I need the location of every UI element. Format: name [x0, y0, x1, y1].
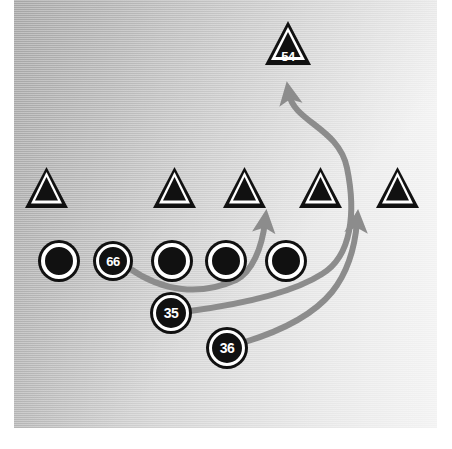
players-layer: 54 — [0, 0, 452, 449]
triangle-icon — [24, 166, 69, 209]
triangle-icon — [375, 166, 420, 209]
defender-5[interactable] — [375, 166, 420, 209]
back-35[interactable]: 35 — [153, 295, 189, 331]
triangle-icon — [298, 166, 343, 209]
lineman-3-label — [158, 247, 186, 275]
back-36[interactable]: 36 — [209, 330, 245, 366]
lineman-4-label — [212, 247, 240, 275]
lineman-1-label — [45, 247, 73, 275]
lineman-1[interactable] — [41, 243, 77, 279]
defender-1[interactable] — [24, 166, 69, 209]
defender-2[interactable] — [152, 166, 197, 209]
triangle-icon — [222, 166, 267, 209]
linebacker-54[interactable]: 54 — [264, 20, 312, 66]
play-diagram-canvas: 54 — [0, 0, 452, 449]
triangle-icon — [264, 20, 312, 66]
defender-3[interactable] — [222, 166, 267, 209]
back-36-label: 36 — [212, 333, 242, 363]
lineman-66-label: 66 — [99, 247, 127, 275]
back-35-label: 35 — [156, 298, 186, 328]
lineman-4[interactable] — [208, 243, 244, 279]
defender-4[interactable] — [298, 166, 343, 209]
triangle-icon — [152, 166, 197, 209]
lineman-5-label — [272, 247, 300, 275]
lineman-66[interactable]: 66 — [96, 244, 130, 278]
lineman-3[interactable] — [154, 243, 190, 279]
lineman-5[interactable] — [268, 243, 304, 279]
